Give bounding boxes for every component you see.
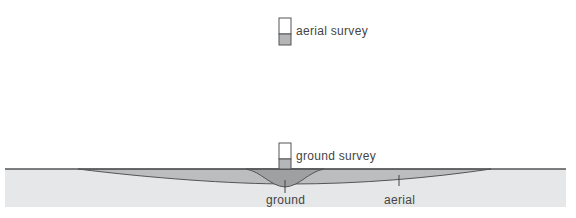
ground-survey-label: ground survey (296, 149, 376, 163)
ground-annotation: ground (266, 193, 305, 207)
ground-survey-icon (279, 143, 291, 169)
aerial-annotation: aerial (384, 193, 415, 207)
cross-section-diagram (0, 0, 576, 218)
aerial-survey-icon (279, 18, 291, 45)
aerial-survey-label: aerial survey (296, 24, 368, 38)
